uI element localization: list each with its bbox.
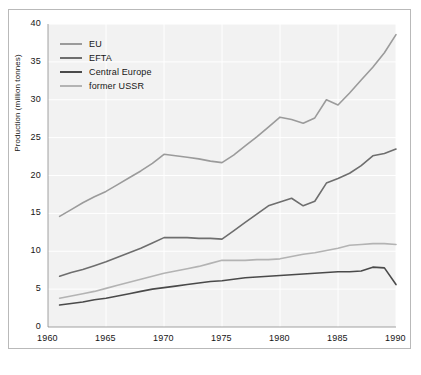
x-tick-label: 1960 <box>37 333 58 343</box>
y-tick-label: 10 <box>19 245 41 255</box>
legend-line-swatch-icon <box>60 85 82 87</box>
y-tick-label: 15 <box>19 207 41 217</box>
x-tick-label: 1970 <box>153 333 174 343</box>
x-tick-label: 1990 <box>385 333 406 343</box>
y-axis-label-text: Production (million tonnes) <box>13 23 22 183</box>
legend-item: EU <box>60 37 152 51</box>
chart-legend: EUEFTACentral Europeformer USSR <box>60 37 152 93</box>
x-tick-label: 1975 <box>211 333 232 343</box>
x-tick-label: 1980 <box>269 333 290 343</box>
y-axis-label: Production (million tonnes) <box>13 23 27 183</box>
legend-item-label: former USSR <box>89 81 144 91</box>
series-line-efta <box>60 149 396 276</box>
y-tick-label: 5 <box>19 283 41 293</box>
legend-line-swatch-icon <box>60 71 82 73</box>
legend-line-swatch-icon <box>60 57 82 59</box>
figure: 0510152025303540196019651970197519801985… <box>0 0 421 375</box>
y-tick-label: 0 <box>19 321 41 331</box>
legend-item: EFTA <box>60 51 152 65</box>
x-tick-label: 1985 <box>327 333 348 343</box>
legend-item-label: Central Europe <box>89 67 152 77</box>
legend-item-label: EU <box>89 39 102 49</box>
legend-line-swatch-icon <box>60 43 82 45</box>
series-line-central-europe <box>60 267 396 305</box>
legend-item: Central Europe <box>60 65 152 79</box>
legend-item-label: EFTA <box>89 53 112 63</box>
x-tick-label: 1965 <box>95 333 116 343</box>
legend-item: former USSR <box>60 79 152 93</box>
